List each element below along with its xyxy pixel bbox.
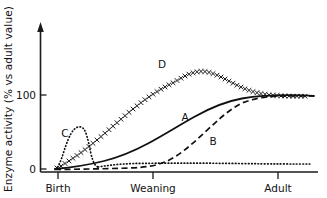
curve-label-b: B — [209, 135, 216, 147]
curve-c-plateau — [98, 163, 312, 167]
x-tick-label-adult: Adult — [264, 182, 291, 194]
curve-b — [55, 96, 314, 170]
x-tick-label-birth: Birth — [45, 182, 70, 194]
plot-area: 100 0 Birth Weaning Adult — [0, 0, 327, 198]
curve-a — [55, 95, 314, 169]
curve-label-a: A — [181, 111, 189, 123]
x-tick-label-weaning: Weaning — [130, 182, 176, 194]
enzyme-activity-chart: Enzyme activity (% vs adult value) 100 0… — [0, 0, 327, 198]
y-tick-label-100: 100 — [16, 89, 36, 101]
curve-label-c: C — [61, 127, 68, 139]
y-axis-arrowhead-icon — [37, 22, 44, 32]
y-tick-label-0: 0 — [29, 163, 36, 175]
curve-label-d: D — [158, 58, 166, 70]
